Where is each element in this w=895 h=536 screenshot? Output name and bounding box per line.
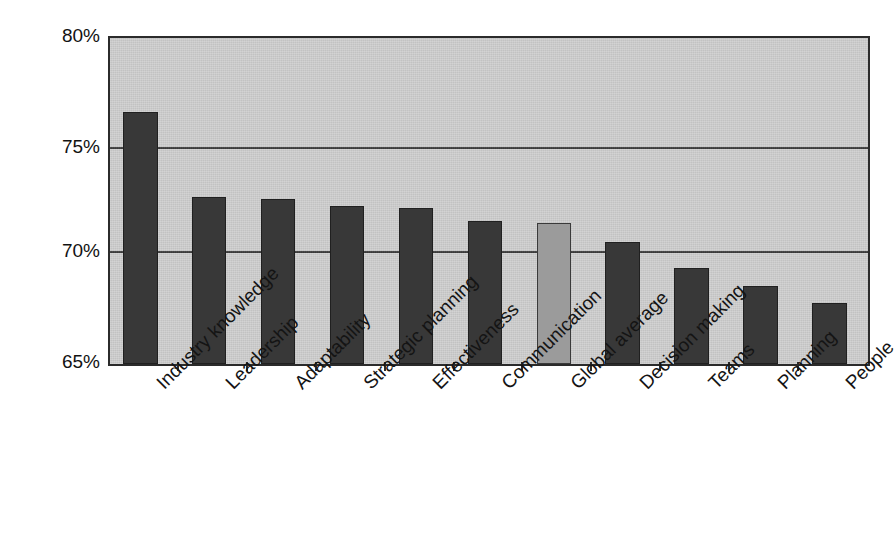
y-tick-label-65: 65% (38, 352, 100, 371)
bar-industry-knowledge (123, 112, 157, 364)
x-label-strategic-planning: Strategic planning (360, 379, 374, 393)
x-label-people: People (842, 379, 856, 393)
y-axis: 80% 75% 70% 65% (30, 0, 100, 536)
x-label-teams: Teams (705, 379, 719, 393)
x-label-leadership: Leadership (222, 379, 236, 393)
bar-chart: 80% 75% 70% 65% Industry knowledgeLeader… (0, 0, 895, 536)
x-label-communication: Communication (498, 379, 512, 393)
x-label-industry-knowledge: Industry knowledge (153, 379, 167, 393)
x-label-global-average: Global average (567, 379, 581, 393)
y-tick-label-70: 70% (38, 241, 100, 260)
x-label-decision-making: Decision making (636, 379, 650, 393)
x-label-effectiveness: Effectiveness (429, 379, 443, 393)
y-tick-label-80: 80% (38, 26, 100, 45)
x-label-planning: Planning (773, 379, 787, 393)
y-tick-label-75: 75% (38, 137, 100, 156)
x-label-adaptability: Adaptability (291, 379, 305, 393)
